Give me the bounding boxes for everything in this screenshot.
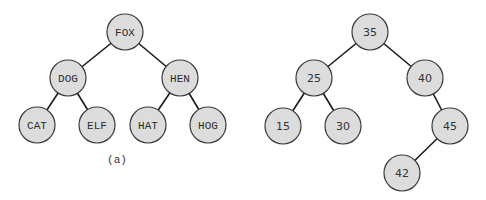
tree-node: CAT [19,107,55,143]
tree-node: HOG [190,107,226,143]
node-label: 15 [276,120,290,133]
node-label: 45 [443,120,457,133]
nodes-layer: FOXDOGHENCATELFHATHOG35254015304542 [19,14,468,191]
node-label: ELF [87,120,107,132]
binary-search-trees-diagram: FOXDOGHENCATELFHATHOG35254015304542 (a) [0,0,486,200]
figure-caption: (a) [107,154,127,166]
node-label: 35 [363,26,377,39]
tree-node: 40 [407,60,443,96]
tree-node: 35 [352,14,388,50]
node-label: FOX [115,27,135,39]
tree-node: 42 [384,155,420,191]
tree-node: HEN [162,60,198,96]
tree-node: DOG [50,60,86,96]
edges-layer [37,32,450,173]
tree-node: HAT [130,107,166,143]
node-label: 42 [395,167,409,180]
tree-node: 45 [432,108,468,144]
node-label: HEN [170,73,190,85]
node-label: 25 [307,72,321,85]
tree-node: 15 [265,108,301,144]
node-label: 30 [336,120,350,133]
node-label: 40 [418,72,432,85]
tree-node: FOX [107,14,143,50]
tree-node: 30 [325,108,361,144]
node-label: HOG [198,120,218,132]
node-label: DOG [58,73,78,85]
node-label: CAT [27,120,47,132]
captions-layer: (a) [107,154,127,166]
tree-node: ELF [79,107,115,143]
tree-node: 25 [296,60,332,96]
node-label: HAT [138,120,158,132]
